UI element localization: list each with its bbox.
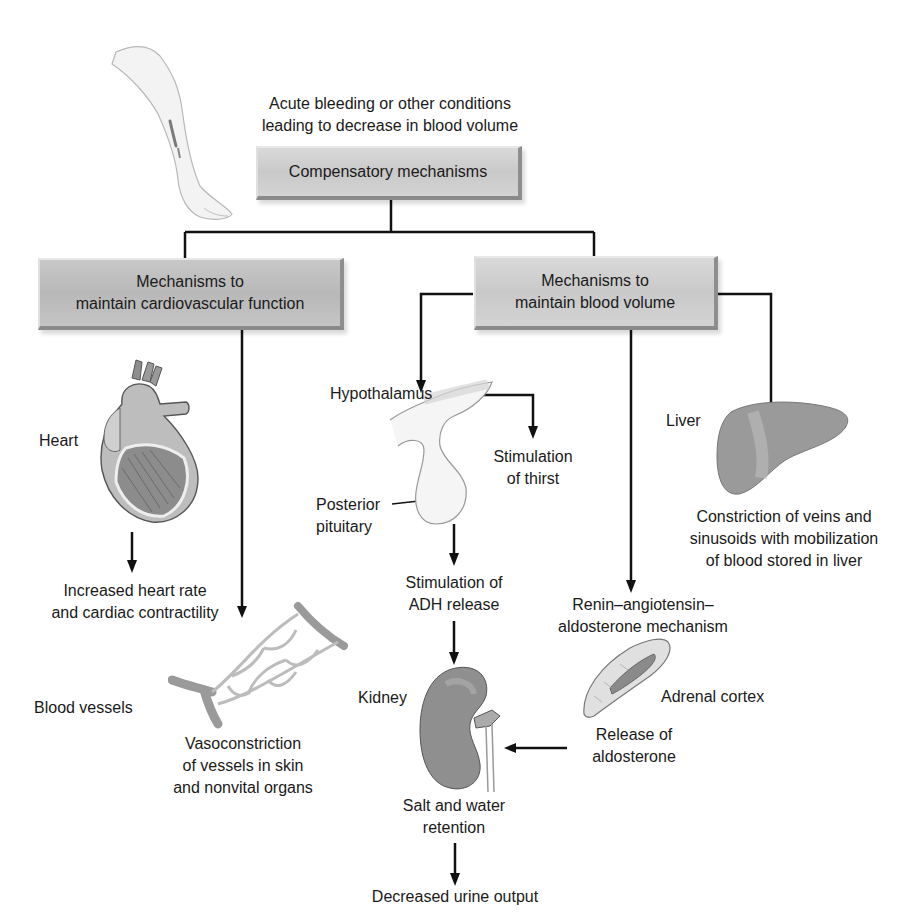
volume-box-line-2: maintain blood volume (515, 292, 675, 314)
cardio-box-line-2: maintain cardiovascular function (76, 293, 305, 315)
blood-volume-box: Mechanisms to maintain blood volume (474, 256, 718, 330)
cardio-box-line-1: Mechanisms to (76, 271, 305, 293)
posterior-line-1: Posterior (316, 494, 380, 516)
aldo-line-2: aldosterone (574, 746, 694, 768)
root-box-label: Compensatory mechanisms (289, 161, 487, 183)
vasoconstriction-text: Vasoconstriction of vessels in skin and … (158, 733, 328, 799)
adh-text: Stimulation of ADH release (394, 572, 514, 616)
blood-vessels-label: Blood vessels (34, 697, 133, 719)
raas-line-1: Renin–angiotensin– (538, 594, 748, 616)
liver-result-line-1: Constriction of veins and (664, 506, 904, 528)
salt-water-text: Salt and water retention (384, 795, 524, 839)
trigger-text: Acute bleeding or other conditions leadi… (214, 93, 566, 137)
heart-result-line-1: Increased heart rate (30, 580, 240, 602)
liver-result-line-2: sinusoids with mobilization (664, 528, 904, 550)
vaso-line-1: Vasoconstriction (158, 733, 328, 755)
liver-result-text: Constriction of veins and sinusoids with… (664, 506, 904, 572)
trigger-line-1: Acute bleeding or other conditions (214, 93, 566, 115)
raas-text: Renin–angiotensin– aldosterone mechanism (538, 594, 748, 638)
salt-line-1: Salt and water (384, 795, 524, 817)
heart-label: Heart (39, 430, 78, 452)
thirst-line-2: of thirst (478, 468, 588, 490)
aldosterone-text: Release of aldosterone (574, 724, 694, 768)
heart-illustration (94, 358, 204, 528)
vaso-line-3: and nonvital organs (158, 777, 328, 799)
thirst-line-1: Stimulation (478, 446, 588, 468)
cardiovascular-function-box: Mechanisms to maintain cardiovascular fu… (38, 258, 344, 330)
kidney-label: Kidney (358, 687, 407, 709)
posterior-pituitary-label: Posterior pituitary (316, 494, 380, 538)
heart-result: Increased heart rate and cardiac contrac… (30, 580, 240, 624)
liver-result-line-3: of blood stored in liver (664, 550, 904, 572)
vaso-line-2: of vessels in skin (158, 755, 328, 777)
compensatory-mechanisms-box: Compensatory mechanisms (256, 146, 522, 200)
adh-line-1: Stimulation of (394, 572, 514, 594)
salt-line-2: retention (384, 817, 524, 839)
thirst-text: Stimulation of thirst (478, 446, 588, 490)
volume-box-line-1: Mechanisms to (515, 270, 675, 292)
kidney-illustration (416, 664, 516, 794)
hypothalamus-label: Hypothalamus (330, 383, 432, 405)
urine-output-text: Decreased urine output (360, 886, 550, 908)
raas-line-2: aldosterone mechanism (538, 616, 748, 638)
adrenal-cortex-label: Adrenal cortex (661, 686, 764, 708)
adh-line-2: ADH release (394, 594, 514, 616)
posterior-line-2: pituitary (316, 516, 380, 538)
liver-illustration (713, 398, 853, 498)
aldo-line-1: Release of (574, 724, 694, 746)
liver-label: Liver (666, 410, 701, 432)
heart-result-line-2: and cardiac contractility (30, 602, 240, 624)
trigger-line-2: leading to decrease in blood volume (214, 115, 566, 137)
